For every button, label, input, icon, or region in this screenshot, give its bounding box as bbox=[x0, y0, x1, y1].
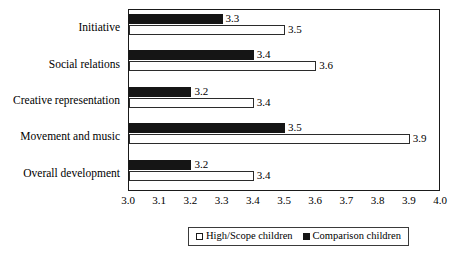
bar-highscope bbox=[129, 134, 410, 144]
bar-value-label: 3.5 bbox=[288, 122, 302, 133]
legend-entry: High/Scope children bbox=[196, 230, 293, 242]
legend-label: High/Scope children bbox=[206, 230, 293, 242]
chart-legend: High/Scope childrenComparison children bbox=[188, 227, 409, 246]
bar-value-label: 3.2 bbox=[194, 159, 208, 170]
x-tick-label: 3.2 bbox=[184, 194, 198, 207]
category-label: Initiative bbox=[0, 21, 120, 33]
x-tick-label: 3.9 bbox=[402, 194, 416, 207]
category-label: Overall development bbox=[0, 167, 120, 179]
category-axis-labels: InitiativeSocial relationsCreative repre… bbox=[0, 9, 124, 191]
x-tick-label: 3.4 bbox=[246, 194, 260, 207]
bar-highscope bbox=[129, 98, 254, 108]
bar-comparison bbox=[129, 50, 254, 60]
bar-comparison bbox=[129, 14, 223, 24]
bar-highscope bbox=[129, 25, 285, 35]
bar-highscope bbox=[129, 171, 254, 181]
x-axis-tick-labels: 3.03.13.23.33.43.53.63.73.83.94.0 bbox=[128, 194, 440, 210]
legend-swatch-icon bbox=[303, 233, 310, 240]
plot-inner: 3.33.53.43.63.23.43.53.93.23.4 bbox=[129, 10, 439, 190]
category-label: Movement and music bbox=[0, 130, 120, 142]
legend-label: Comparison children bbox=[313, 230, 401, 242]
x-tick-label: 3.5 bbox=[277, 194, 291, 207]
bar-value-label: 3.4 bbox=[257, 170, 271, 181]
x-tick-label: 3.6 bbox=[308, 194, 322, 207]
bar-chart: InitiativeSocial relationsCreative repre… bbox=[0, 0, 470, 257]
bar-value-label: 3.3 bbox=[226, 13, 240, 24]
x-tick-label: 3.8 bbox=[371, 194, 385, 207]
category-label: Creative representation bbox=[0, 94, 120, 106]
plot-area: 3.33.53.43.63.23.43.53.93.23.4 bbox=[128, 9, 440, 191]
bar-value-label: 3.4 bbox=[257, 49, 271, 60]
bar-comparison bbox=[129, 87, 191, 97]
bar-value-label: 3.6 bbox=[319, 60, 333, 71]
x-tick-label: 3.1 bbox=[152, 194, 166, 207]
bar-value-label: 3.4 bbox=[257, 97, 271, 108]
legend-entry: Comparison children bbox=[303, 230, 401, 242]
bar-value-label: 3.5 bbox=[288, 24, 302, 35]
x-tick-label: 3.3 bbox=[215, 194, 229, 207]
legend-swatch-icon bbox=[196, 233, 203, 240]
bar-value-label: 3.9 bbox=[413, 133, 427, 144]
x-tick-label: 3.7 bbox=[340, 194, 354, 207]
bar-comparison bbox=[129, 123, 285, 133]
bar-value-label: 3.2 bbox=[194, 86, 208, 97]
category-label: Social relations bbox=[0, 58, 120, 70]
bar-highscope bbox=[129, 61, 316, 71]
x-tick-label: 3.0 bbox=[121, 194, 135, 207]
bar-comparison bbox=[129, 160, 191, 170]
x-tick-label: 4.0 bbox=[433, 194, 447, 207]
